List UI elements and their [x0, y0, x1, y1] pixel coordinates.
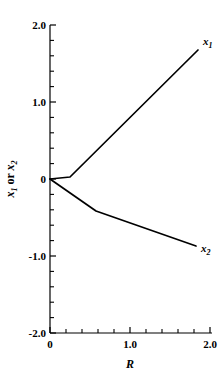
x-axis-title: R — [125, 357, 134, 371]
y-tick-label-2: 2.0 — [32, 19, 46, 31]
y-tick-label-neg2: -2.0 — [29, 327, 47, 339]
chart-svg: 2.0 1.0 0 -1.0 -2.0 — [0, 0, 224, 373]
y-tick-label-neg1: -1.0 — [29, 250, 47, 262]
y-axis-title-x2: x — [3, 164, 17, 171]
y-tick-label-1: 1.0 — [32, 96, 46, 108]
x-tick-label-2: 2.0 — [203, 338, 217, 350]
y-axis-title: x1 or x2 — [3, 160, 19, 198]
y-axis-title-or: or — [3, 170, 17, 187]
x-tick-label-0: 0 — [47, 338, 53, 350]
svg-text:x1 or x2: x1 or x2 — [3, 160, 19, 198]
y-axis-title-x1: x — [3, 192, 17, 199]
chart-background — [0, 0, 224, 373]
bifurcation-diagram-figure: 2.0 1.0 0 -1.0 -2.0 — [0, 0, 224, 373]
y-axis-title-x2-sub: 2 — [10, 160, 19, 165]
x-tick-label-1: 1.0 — [123, 338, 137, 350]
y-tick-label-0: 0 — [41, 173, 47, 185]
